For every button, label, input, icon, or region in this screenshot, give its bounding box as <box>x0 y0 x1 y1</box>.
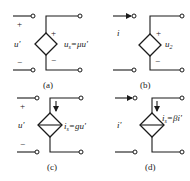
terminal <box>35 96 39 100</box>
terminal <box>35 150 39 154</box>
input-minus-sign: − <box>20 139 25 149</box>
source-minus-sign: − <box>155 56 160 66</box>
output-wire-bottom <box>152 137 180 152</box>
output-expression: us=μu' <box>64 39 89 50</box>
input-current-label: i <box>117 28 120 38</box>
terminal <box>132 68 136 72</box>
terminal <box>31 14 35 18</box>
terminal <box>132 14 136 18</box>
terminal <box>133 150 137 154</box>
output-expression: is=βi' <box>162 113 183 124</box>
input-voltage-label: u' <box>18 120 26 130</box>
terminal <box>79 96 83 100</box>
output-wire-top <box>152 98 180 113</box>
caption-d: (d) <box>145 162 156 172</box>
source-plus-sign: + <box>156 28 161 38</box>
output-wire-top <box>150 16 180 34</box>
terminal <box>180 68 184 72</box>
panel-c-vccs: + − u' is=gu' (c) <box>17 96 87 172</box>
controlled-sources-diagram: + − u' + − us=μu' (a) i + − u2 (b) + <box>0 0 190 181</box>
output-wire-top <box>50 98 79 113</box>
terminal <box>78 14 82 18</box>
output-expression: is=gu' <box>64 121 87 132</box>
terminal <box>79 150 83 154</box>
input-plus-sign: + <box>17 19 22 29</box>
output-expression: u2 <box>165 39 173 50</box>
panel-a-vcvs: + − u' + − us=μu' (a) <box>13 14 89 90</box>
terminal <box>180 96 184 100</box>
terminal <box>180 14 184 18</box>
terminal <box>78 68 82 72</box>
output-wire-bottom <box>50 137 79 152</box>
terminal <box>31 68 35 72</box>
terminal <box>133 96 137 100</box>
panel-b-ccvs: i + − u2 (b) <box>113 14 184 90</box>
caption-b: (b) <box>140 80 151 90</box>
panel-d-cccs: i' is=βi' (d) <box>115 96 184 172</box>
terminal <box>180 150 184 154</box>
caption-c: (c) <box>47 162 57 172</box>
input-voltage-label: u' <box>14 39 22 49</box>
source-minus-sign: − <box>51 55 56 65</box>
input-minus-sign: − <box>17 57 22 67</box>
input-current-label: i' <box>117 120 123 130</box>
input-plus-sign: + <box>20 101 25 111</box>
source-plus-sign: + <box>51 28 56 38</box>
caption-a: (a) <box>43 80 53 90</box>
